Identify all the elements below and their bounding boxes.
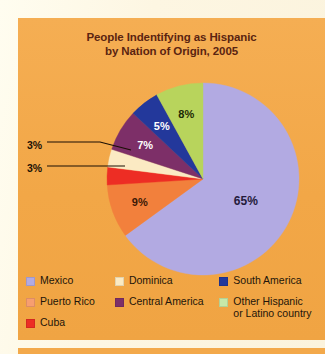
pie-slice-label-central-america: 7%: [137, 139, 153, 151]
pie-chart-svg: 65%9%7%5%8%: [90, 72, 315, 284]
pie-slice-label-south-america: 5%: [154, 120, 170, 132]
chart-title-line-2: by Nation of Origin, 2005: [18, 44, 325, 58]
pie-slice-label-mexico: 65%: [234, 194, 258, 208]
legend-label-mexico: Mexico: [40, 274, 73, 286]
legend-column-2: DominicaCentral America: [115, 274, 219, 316]
callout-cuba: 3%: [27, 162, 42, 174]
pie-chart: 65%9%7%5%8%: [90, 72, 315, 284]
legend-item-cuba[interactable]: Cuba: [26, 316, 115, 328]
next-figure-panel-sliver: [18, 348, 325, 354]
legend-columns: MexicoPuerto RicoCubaDominicaCentral Ame…: [26, 274, 316, 337]
legend-item-puerto-rico[interactable]: Puerto Rico: [26, 295, 115, 307]
legend-swatch-icon-mexico: [26, 277, 35, 286]
legend-swatch-icon-south-america: [219, 277, 228, 286]
pie-slice-group: [107, 83, 299, 275]
pie-slice-label-puerto-rico: 9%: [132, 196, 148, 208]
chart-title: People Indentifying as Hispanic by Natio…: [18, 30, 325, 58]
chart-title-line-1: People Indentifying as Hispanic: [86, 31, 256, 43]
legend-column-1: MexicoPuerto RicoCuba: [26, 274, 115, 337]
callout-dominica: 3%: [27, 139, 42, 151]
legend-swatch-icon-other-hispanic-or-latino-country: [219, 298, 228, 307]
legend-label-other-hispanic-or-latino-country: Other Hispanic or Latino country: [233, 295, 311, 319]
chart-legend: MexicoPuerto RicoCubaDominicaCentral Ame…: [26, 274, 316, 337]
legend-label-central-america: Central America: [129, 295, 204, 307]
legend-label-puerto-rico: Puerto Rico: [40, 295, 95, 307]
legend-item-south-america[interactable]: South America: [219, 274, 316, 286]
legend-swatch-icon-central-america: [115, 298, 124, 307]
legend-swatch-icon-puerto-rico: [26, 298, 35, 307]
legend-item-other-hispanic-or-latino-country[interactable]: Other Hispanic or Latino country: [219, 295, 316, 319]
legend-swatch-icon-dominica: [115, 277, 124, 286]
legend-label-south-america: South America: [233, 274, 301, 286]
legend-item-mexico[interactable]: Mexico: [26, 274, 115, 286]
legend-item-central-america[interactable]: Central America: [115, 295, 219, 307]
legend-swatch-icon-cuba: [26, 319, 35, 328]
legend-column-3: South AmericaOther Hispanic or Latino co…: [219, 274, 316, 328]
legend-label-cuba: Cuba: [40, 316, 65, 328]
legend-label-dominica: Dominica: [129, 274, 173, 286]
pie-slice-label-other: 8%: [178, 108, 194, 120]
legend-item-dominica[interactable]: Dominica: [115, 274, 219, 286]
